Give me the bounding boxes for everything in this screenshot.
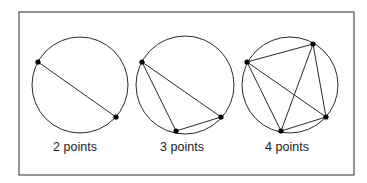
point-dot [35,59,40,64]
point-dot [218,114,223,119]
chord-line [247,62,326,117]
chord-line [247,44,313,62]
point-dot [244,59,249,64]
point-dot [173,128,178,133]
panel-3-points: 3 points [136,36,234,154]
panel-4-points: 4 points [242,37,338,154]
panels: 2 points3 points4 points [32,36,338,154]
point-dot [310,41,315,46]
circle [32,37,128,133]
chord-line [281,117,326,131]
circle [136,36,234,134]
point-dot [139,59,144,64]
chord-line [313,44,326,117]
chord-line [281,44,313,131]
chord-line [247,62,281,131]
chord-line [142,62,221,117]
panel-label: 4 points [265,140,309,154]
point-dot [323,114,328,119]
chord-line [38,62,116,117]
circle-points-diagram: 2 points3 points4 points [0,0,367,183]
point-dot [113,114,118,119]
point-dot [278,128,283,133]
panel-label: 3 points [160,140,204,154]
chord-line [142,62,176,131]
circle [242,37,338,133]
panel-2-points: 2 points [32,37,128,154]
panel-label: 2 points [53,140,97,154]
